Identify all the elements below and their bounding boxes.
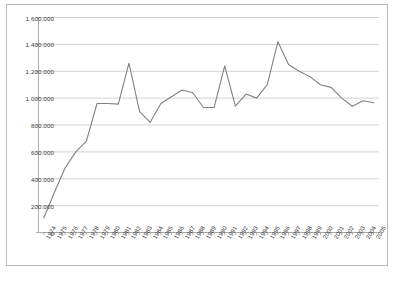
x-axis-label: 1978 bbox=[88, 225, 100, 240]
x-axis-label: 2000 bbox=[322, 225, 334, 240]
x-axis-label: 2003 bbox=[354, 225, 366, 240]
x-axis-label: 1986 bbox=[173, 225, 185, 240]
x-axis-label: 1997 bbox=[290, 225, 302, 240]
x-axis-label: 1989 bbox=[205, 225, 217, 240]
x-axis-label: 1975 bbox=[56, 225, 68, 240]
x-axis-label: 1983 bbox=[141, 225, 153, 240]
x-axis-label: 1994 bbox=[258, 225, 270, 240]
x-axis: 1974197519761977197819791980198119821983… bbox=[0, 0, 416, 283]
